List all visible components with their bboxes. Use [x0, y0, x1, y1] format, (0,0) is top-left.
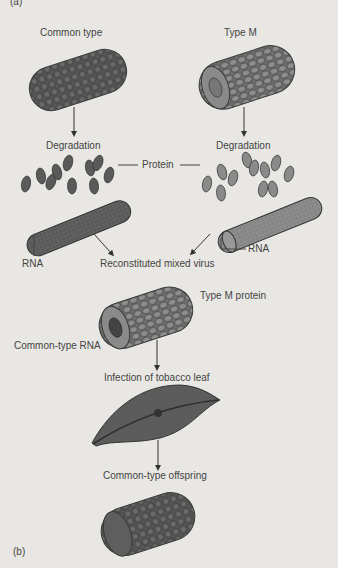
offspring-virus-icon: [95, 486, 201, 561]
label-type-m-protein: Type M protein: [200, 290, 266, 301]
label-degradation-left: Degradation: [46, 140, 100, 151]
type-m-virus-icon: [193, 39, 301, 115]
diagram-canvas: [0, 0, 338, 568]
label-type-m: Type M: [224, 27, 257, 38]
label-rna-right: RNA: [248, 243, 269, 254]
label-infection: Infection of tobacco leaf: [104, 372, 210, 383]
panel-label-a: (a): [10, 0, 22, 7]
panel-label-b: (b): [13, 546, 25, 557]
arrow-right-reconstituted: [192, 234, 210, 253]
rna-rod-right-icon: [215, 194, 325, 256]
label-common-type: Common type: [40, 27, 102, 38]
arrow-left-reconstituted: [94, 234, 112, 254]
label-offspring: Common-type offspring: [103, 470, 207, 481]
label-rna-left: RNA: [22, 258, 43, 269]
tobacco-leaf-icon: [92, 385, 220, 446]
label-common-type-rna: Common-type RNA: [14, 340, 101, 351]
label-reconstituted: Reconstituted mixed virus: [100, 258, 215, 269]
protein-subunits-right-icon: [201, 151, 295, 201]
common-type-virus-icon: [24, 44, 133, 117]
label-protein: Protein: [142, 159, 174, 170]
protein-subunits-left-icon: [20, 154, 115, 194]
reconstituted-virus-icon: [93, 281, 199, 354]
label-degradation-right: Degradation: [216, 140, 270, 151]
rna-rod-left-icon: [24, 197, 134, 259]
